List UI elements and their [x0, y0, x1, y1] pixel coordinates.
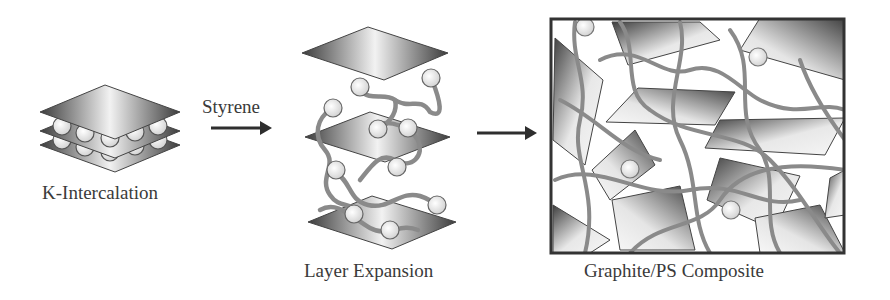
- intercalated-graphite-stack: [40, 85, 180, 172]
- process-diagram: K-Intercalation Styrene Layer Expansion …: [0, 0, 890, 300]
- arrow-styrene: [211, 121, 272, 135]
- label-k-intercalation: K-Intercalation: [42, 182, 158, 204]
- label-layer-expansion: Layer Expansion: [304, 260, 433, 282]
- label-styrene: Styrene: [202, 96, 260, 118]
- label-composite: Graphite/PS Composite: [584, 260, 764, 282]
- composite-panel: [551, 18, 845, 253]
- expanded-layers: [302, 27, 456, 249]
- diagram-graphics: [0, 0, 890, 300]
- arrow-to-composite: [477, 126, 537, 140]
